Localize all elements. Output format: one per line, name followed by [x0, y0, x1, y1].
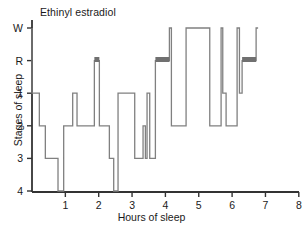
- y-axis-ticks: WR1234: [13, 22, 32, 197]
- x-tick-label: 5: [196, 199, 202, 211]
- y-tick-label: 2: [17, 120, 23, 132]
- y-tick-label: 4: [17, 185, 23, 197]
- rem-bar: [242, 57, 256, 62]
- x-tick-label: 6: [229, 199, 235, 211]
- rem-bar: [155, 57, 169, 62]
- x-tick-label: 2: [96, 199, 102, 211]
- hypnogram-trace: [32, 28, 258, 191]
- rem-bars: [94, 57, 256, 62]
- rem-bar: [94, 57, 99, 62]
- y-tick-label: 1: [17, 87, 23, 99]
- x-tick-label: 3: [129, 199, 135, 211]
- y-tick-label: R: [15, 55, 23, 67]
- x-tick-label: 4: [162, 199, 168, 211]
- plot-area: WR1234 12345678: [0, 0, 303, 230]
- y-tick-label: W: [13, 22, 23, 34]
- x-tick-label: 8: [296, 199, 302, 211]
- x-tick-label: 7: [263, 199, 269, 211]
- y-tick-label: 3: [17, 152, 23, 164]
- x-tick-label: 1: [62, 199, 68, 211]
- x-axis-ticks: 12345678: [62, 192, 301, 211]
- hypnogram-chart: Ethinyl estradiol Stages of sleep Hours …: [0, 0, 303, 230]
